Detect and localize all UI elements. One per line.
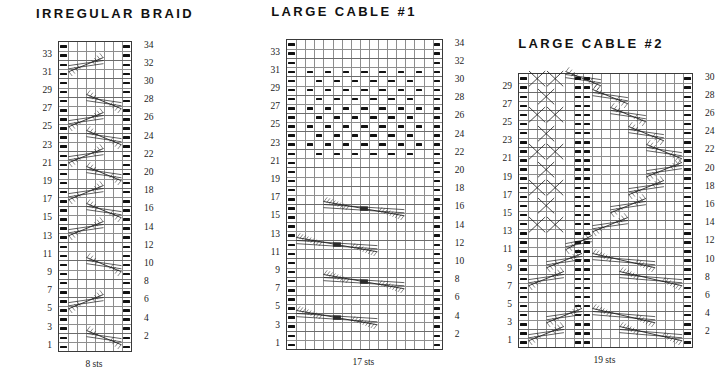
purl-stitch-symbol <box>123 218 129 221</box>
purl-stitch-symbol <box>584 223 590 226</box>
purl-stitch-symbol <box>684 241 690 244</box>
purl-stitch-symbol <box>334 134 340 137</box>
purl-stitch-symbol <box>60 346 66 349</box>
purl-stitch-symbol <box>123 45 129 48</box>
purl-stitch-symbol <box>434 262 440 265</box>
cable-crossing-symbol <box>610 106 646 123</box>
grid-hline <box>287 76 442 77</box>
purl-stitch-symbol <box>60 64 66 67</box>
purl-stitch-symbol <box>398 143 404 146</box>
purl-stitch-symbol <box>60 127 66 130</box>
purl-stitch-symbol <box>60 282 66 285</box>
purl-stitch-symbol <box>407 98 413 101</box>
cable-crossing-symbol <box>592 307 656 324</box>
purl-stitch-symbol <box>60 300 66 303</box>
purl-stitch-symbol <box>123 191 129 194</box>
grid-hline <box>287 177 442 178</box>
purl-stitch-symbol <box>684 196 690 199</box>
purl-stitch-symbol <box>575 278 581 281</box>
cable-crossing-symbol <box>528 270 564 287</box>
cable-crossing-symbol <box>86 256 122 273</box>
grid-hline <box>519 238 692 239</box>
purl-stitch-symbol <box>307 89 313 92</box>
row-number-right: 2 <box>144 332 149 342</box>
purl-stitch-symbol <box>352 80 358 83</box>
row-number-left: 23 <box>256 139 280 149</box>
purl-stitch-symbol <box>434 234 440 237</box>
purl-stitch-symbol <box>316 80 322 83</box>
purl-stitch-symbol <box>123 264 129 267</box>
grid-hline <box>287 67 442 68</box>
chart-grid-large-cable-1: 3331292725232119171513119753134323028262… <box>228 19 460 371</box>
purl-stitch-symbol <box>123 209 129 212</box>
purl-stitch-symbol <box>684 150 690 153</box>
purl-stitch-symbol <box>288 189 294 192</box>
purl-stitch-symbol <box>123 64 129 67</box>
purl-stitch-symbol <box>60 155 66 158</box>
grid-hline <box>287 304 442 305</box>
purl-stitch-symbol <box>584 205 590 208</box>
grid-hline <box>287 122 442 123</box>
purl-stitch-symbol <box>123 246 129 249</box>
purl-stitch-symbol <box>684 123 690 126</box>
purl-stitch-symbol <box>60 337 66 340</box>
purl-stitch-symbol <box>60 200 66 203</box>
purl-stitch-symbol <box>123 282 129 285</box>
purl-stitch-symbol <box>398 71 404 74</box>
purl-stitch-symbol <box>288 289 294 292</box>
purl-stitch-symbol <box>352 153 358 156</box>
purl-stitch-symbol <box>60 109 66 112</box>
purl-stitch-symbol <box>520 287 526 290</box>
purl-stitch-symbol <box>434 62 440 65</box>
purl-stitch-symbol <box>434 89 440 92</box>
purl-stitch-symbol <box>520 314 526 317</box>
purl-stitch-symbol <box>584 196 590 199</box>
row-number-left: 29 <box>256 84 280 94</box>
row-number-left: 31 <box>256 66 280 76</box>
grid-hline <box>287 158 442 159</box>
purl-stitch-symbol <box>684 341 690 344</box>
row-number-left: 3 <box>28 323 52 333</box>
purl-stitch-symbol <box>288 116 294 119</box>
cable-crossing-symbol <box>86 129 122 146</box>
cable-crossing-symbol <box>628 179 664 196</box>
purl-stitch-symbol <box>60 255 66 258</box>
purl-stitch-symbol <box>520 205 526 208</box>
chart-grid-large-cable-2: 2927252321191715131197531302826242220181… <box>458 51 724 371</box>
purl-stitch-symbol <box>407 134 413 137</box>
chart-title-large-cable-2: LARGE CABLE #2 <box>458 36 724 51</box>
cable-crossing-symbol <box>528 143 546 160</box>
purl-stitch-symbol <box>584 259 590 262</box>
stitch-grid <box>58 41 130 350</box>
purl-stitch-symbol <box>398 125 404 128</box>
cable-crossing-symbol <box>528 216 546 233</box>
cable-crossing-symbol <box>68 56 104 73</box>
purl-stitch-symbol <box>288 125 294 128</box>
purl-stitch-symbol <box>288 335 294 338</box>
purl-stitch-symbol <box>520 86 526 89</box>
purl-stitch-symbol <box>575 177 581 180</box>
row-number-right: 26 <box>705 109 715 119</box>
grid-hline <box>287 231 442 232</box>
purl-stitch-symbol <box>343 125 349 128</box>
grid-hline <box>287 331 442 332</box>
purl-stitch-symbol <box>60 273 66 276</box>
row-number-left: 25 <box>488 118 512 128</box>
row-number-left: 29 <box>488 82 512 92</box>
purl-stitch-symbol <box>361 107 367 110</box>
purl-stitch-symbol <box>584 287 590 290</box>
purl-stitch-symbol <box>434 125 440 128</box>
row-number-right: 6 <box>144 295 149 305</box>
purl-stitch-symbol <box>575 168 581 171</box>
grid-hline <box>519 292 692 293</box>
grid-hline <box>287 140 442 141</box>
purl-stitch-symbol <box>575 223 581 226</box>
purl-stitch-symbol <box>60 191 66 194</box>
grid-hline <box>59 78 131 79</box>
cable-crossing-symbol <box>68 147 104 164</box>
purl-stitch-symbol <box>684 86 690 89</box>
purl-stitch-symbol <box>370 116 376 119</box>
purl-stitch-symbol <box>407 116 413 119</box>
purl-stitch-symbol <box>584 332 590 335</box>
purl-stitch-symbol <box>325 89 331 92</box>
